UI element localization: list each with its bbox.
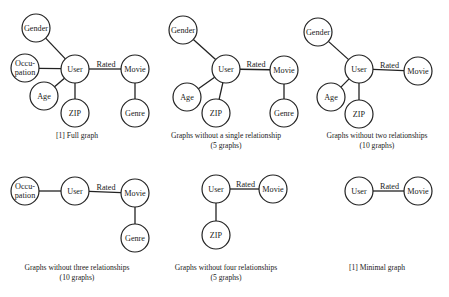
- edge-gender-user: [193, 39, 215, 59]
- node-genre: Genre: [121, 99, 149, 127]
- node-label: ZIP: [210, 231, 223, 240]
- panel-caption: Graphs without four relationships(5 grap…: [175, 263, 277, 283]
- edge-label: Rated: [96, 183, 115, 192]
- edge-gender-user: [46, 38, 66, 59]
- panel-caption: Graphs without two relationships(10 grap…: [326, 131, 427, 151]
- node-label: Genre: [274, 109, 294, 118]
- edge-label: Rated: [380, 61, 399, 70]
- panel-minimal: RatedUserMovie: [345, 177, 432, 205]
- node-label: Age: [324, 93, 338, 102]
- node-label: Gender: [171, 26, 195, 35]
- node-label: Genre: [125, 234, 145, 243]
- node-age: Age: [30, 82, 58, 110]
- edge-user-movie: [373, 69, 404, 70]
- node-genre: Genre: [270, 99, 298, 127]
- node-label: User: [67, 187, 83, 196]
- node-movie: Movie: [270, 56, 298, 84]
- caption-line: (10 graphs): [326, 141, 427, 151]
- node-label: Gender: [306, 28, 330, 37]
- panel-full: RatedGenderOccu-pationUserMovieAgeZIPGen…: [11, 14, 149, 127]
- node-user: User: [212, 55, 240, 83]
- node-label: pation: [15, 191, 35, 200]
- edge-user-movie: [89, 191, 121, 192]
- node-age: Age: [173, 83, 201, 111]
- caption-line: Graphs without three relationships: [25, 263, 130, 273]
- node-genre: Genre: [121, 224, 149, 252]
- edge-label: Rated: [380, 182, 399, 191]
- node-movie: Movie: [259, 175, 287, 203]
- node-occupation: Occu-pation: [11, 177, 39, 205]
- node-label: ZIP: [69, 109, 82, 118]
- edge-label: Rated: [236, 180, 255, 189]
- node-label: User: [351, 187, 367, 196]
- panel-caption: Graphs without three relationships(10 gr…: [25, 263, 130, 283]
- panel-minus-four: RatedUserMovieZIP: [202, 175, 287, 249]
- edge-label: Rated: [96, 60, 115, 69]
- node-label: Movie: [262, 185, 284, 194]
- caption-line: Graphs without two relationships: [326, 131, 427, 141]
- node-label: ZIP: [353, 110, 366, 119]
- caption-line: (5 graphs): [171, 141, 281, 151]
- node-label: Genre: [125, 109, 145, 118]
- node-movie: Movie: [121, 55, 149, 83]
- node-label: Age: [180, 93, 194, 102]
- panel-minus-three: RatedOccu-pationUserMovieGenre: [11, 177, 149, 252]
- node-age: Age: [317, 83, 345, 111]
- node-label: Movie: [124, 65, 146, 74]
- caption-line: [1] Minimal graph: [349, 263, 405, 273]
- node-label: ZIP: [210, 109, 223, 118]
- node-gender: Gender: [304, 18, 332, 46]
- node-label: User: [208, 185, 224, 194]
- edge-age-user: [198, 77, 214, 89]
- node-occupation: Occu-pation: [11, 54, 39, 82]
- node-label: User: [218, 65, 234, 74]
- panel-minus-one: RatedGenderUserMovieAgeZIPGenre: [169, 16, 298, 127]
- edge-age-user: [341, 79, 349, 87]
- caption-line: (5 graphs): [175, 273, 277, 283]
- panel-caption: [1] Minimal graph: [349, 263, 405, 273]
- edge-age-user: [55, 78, 65, 87]
- node-movie: Movie: [404, 57, 432, 85]
- node-label: Movie: [407, 187, 429, 196]
- node-user: User: [202, 175, 230, 203]
- node-zip: ZIP: [202, 221, 230, 249]
- caption-line: [1] Full graph: [56, 131, 98, 141]
- edge-gender-user: [328, 41, 348, 59]
- node-gender: Gender: [169, 16, 197, 44]
- node-label: Age: [37, 92, 51, 101]
- node-zip: ZIP: [61, 99, 89, 127]
- edge-zip-user: [219, 83, 223, 100]
- edge-label: Rated: [246, 60, 265, 69]
- node-user: User: [61, 55, 89, 83]
- node-label: Movie: [273, 66, 295, 75]
- panel-caption: Graphs without a single relationship(5 g…: [171, 131, 281, 151]
- node-user: User: [61, 177, 89, 205]
- node-user: User: [345, 55, 373, 83]
- node-movie: Movie: [121, 179, 149, 207]
- edge-user-movie: [240, 69, 270, 70]
- node-movie: Movie: [404, 177, 432, 205]
- node-label: Movie: [124, 189, 146, 198]
- panel-minus-two: RatedGenderUserMovieAgeZIP: [304, 18, 432, 128]
- node-zip: ZIP: [202, 99, 230, 127]
- caption-line: (10 graphs): [25, 273, 130, 283]
- caption-line: Graphs without four relationships: [175, 263, 277, 273]
- node-label: Gender: [24, 24, 48, 33]
- node-user: User: [345, 177, 373, 205]
- node-zip: ZIP: [345, 100, 373, 128]
- caption-line: Graphs without a single relationship: [171, 131, 281, 141]
- panel-caption: [1] Full graph: [56, 131, 98, 141]
- node-label: pation: [15, 68, 35, 77]
- node-label: User: [351, 65, 367, 74]
- node-label: User: [67, 65, 83, 74]
- node-label: Movie: [407, 67, 429, 76]
- node-gender: Gender: [22, 14, 50, 42]
